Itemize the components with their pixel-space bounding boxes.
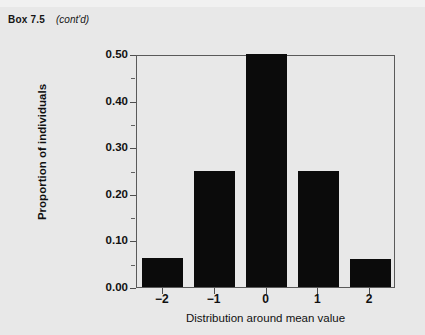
x-axis-title: Distribution around mean value <box>136 312 395 324</box>
x-axis-tick-label: 0 <box>246 292 286 306</box>
bar <box>246 54 287 287</box>
y-axis-tick <box>130 241 136 242</box>
y-axis-tick-label: 0.50 <box>88 48 128 60</box>
y-axis-tick-label: 0.00 <box>88 281 128 293</box>
x-axis-tick-label: −1 <box>194 292 234 306</box>
y-axis-minor-tick <box>131 265 135 266</box>
bar-chart-figure: 0.000.100.200.300.400.50 −2−1012 Proport… <box>0 38 425 335</box>
bar <box>142 258 183 287</box>
y-axis-tick-label: 0.10 <box>88 234 128 246</box>
plot-area <box>137 56 394 287</box>
y-axis-tick-label: 0.40 <box>88 95 128 107</box>
x-axis-tick-label: 2 <box>349 292 389 306</box>
box-label: Box 7.5 <box>8 14 45 25</box>
y-axis-minor-tick <box>131 218 135 219</box>
bar <box>298 171 339 288</box>
bar <box>194 171 235 288</box>
y-axis-tick-labels: 0.000.100.200.300.400.50 <box>84 38 128 288</box>
y-axis-tick <box>130 55 136 56</box>
box-continued-label: (cont'd) <box>56 14 89 25</box>
y-axis-minor-tick <box>131 125 135 126</box>
y-axis-tick <box>130 195 136 196</box>
y-axis-tick <box>130 288 136 289</box>
y-axis-tick <box>130 102 136 103</box>
bar <box>350 259 391 287</box>
x-axis-tick-label: −2 <box>142 292 182 306</box>
y-axis-tick <box>130 148 136 149</box>
x-axis-tick-label: 1 <box>297 292 337 306</box>
y-axis-tick-label: 0.30 <box>88 141 128 153</box>
y-axis-tick-label: 0.20 <box>88 188 128 200</box>
page-top-edge <box>0 0 425 7</box>
box-header: Box 7.5(cont'd) <box>8 14 89 25</box>
figure-page: Box 7.5(cont'd) 0.000.100.200.300.400.50… <box>0 0 425 335</box>
y-axis-minor-tick <box>131 172 135 173</box>
plot-frame <box>136 55 395 288</box>
y-axis-minor-tick <box>131 78 135 79</box>
y-axis-title: Proportion of individuals <box>36 57 48 247</box>
